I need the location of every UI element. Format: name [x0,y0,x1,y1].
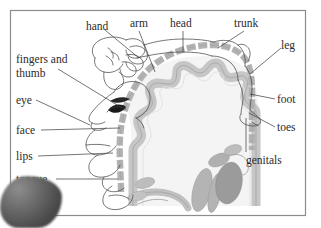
label-leg: leg [281,39,295,52]
label-foot: foot [277,93,296,105]
label-eye: eye [16,94,32,107]
label-trunk: trunk [234,17,259,29]
brain-cross-section [128,56,258,214]
label-thumb: thumb [16,67,46,79]
foreground-blur-object [0,176,62,228]
label-face: face [16,124,35,136]
label-fingers-and: fingers and [16,53,68,66]
label-arm: arm [130,17,148,29]
label-hand: hand [86,20,109,32]
label-genitals: genitals [246,154,282,167]
label-head: head [170,17,192,29]
diagram-page: hand arm head trunk leg foot toes genita… [0,0,321,228]
label-toes: toes [277,121,296,133]
label-lips: lips [16,150,33,163]
